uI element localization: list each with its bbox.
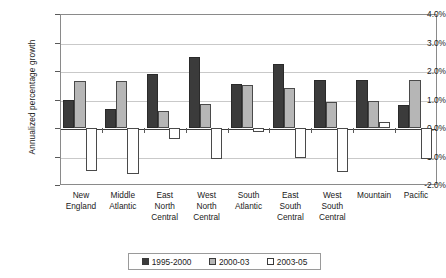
bar-group bbox=[186, 14, 228, 185]
bar-group bbox=[144, 14, 186, 185]
x-axis-label-line: England bbox=[60, 201, 102, 212]
x-axis-label-line: East bbox=[144, 190, 186, 201]
legend-label: 2003-05 bbox=[277, 257, 307, 267]
legend-item[interactable]: 1995-2000 bbox=[142, 257, 192, 267]
x-axis-label: SouthAtlantic bbox=[228, 190, 270, 212]
x-axis-label-line: Central bbox=[311, 212, 353, 223]
bar-group bbox=[228, 14, 270, 185]
bar-group bbox=[269, 14, 311, 185]
x-axis-label-line: West bbox=[186, 190, 228, 201]
bar-group bbox=[60, 14, 102, 185]
bar bbox=[284, 88, 295, 128]
x-axis-label-line: New bbox=[60, 190, 102, 201]
bar bbox=[63, 100, 74, 129]
legend-swatch-icon bbox=[209, 258, 216, 265]
legend-swatch-icon bbox=[267, 258, 274, 265]
bar bbox=[158, 111, 169, 128]
x-axis-label-line: South bbox=[228, 190, 270, 201]
bar bbox=[74, 81, 85, 128]
x-axis-label-line: Central bbox=[186, 212, 228, 223]
bar bbox=[116, 81, 127, 128]
legend-label: 2000-03 bbox=[219, 257, 249, 267]
bar bbox=[147, 74, 158, 128]
bar bbox=[127, 128, 138, 174]
x-axis-label-line: West bbox=[311, 190, 353, 201]
bar-group bbox=[102, 14, 144, 185]
bar-group bbox=[353, 14, 395, 185]
x-axis-label-line: Middle bbox=[102, 190, 144, 201]
x-axis-label-line: South bbox=[269, 201, 311, 212]
x-axis-label-line: North bbox=[186, 201, 228, 212]
legend-swatch-icon bbox=[142, 258, 149, 265]
x-axis-label-line: Atlantic bbox=[228, 201, 270, 212]
legend-label: 1995-2000 bbox=[152, 257, 192, 267]
x-axis-label-line: South bbox=[311, 201, 353, 212]
bar bbox=[273, 64, 284, 128]
bar bbox=[356, 80, 367, 128]
x-axis-label-line: Pacific bbox=[395, 190, 437, 201]
x-axis-label: EastSouthCentral bbox=[269, 190, 311, 223]
bar bbox=[295, 128, 306, 158]
bar bbox=[105, 109, 116, 128]
bar bbox=[379, 122, 390, 128]
x-axis-label-line: Atlantic bbox=[102, 201, 144, 212]
bar bbox=[398, 105, 409, 128]
bar bbox=[86, 128, 97, 171]
bar bbox=[314, 80, 325, 128]
y-tick-mark bbox=[55, 185, 60, 186]
x-axis-label-line: Central bbox=[269, 212, 311, 223]
bar-group bbox=[311, 14, 353, 185]
y-axis-title: Annualized percentage growth bbox=[27, 7, 37, 187]
bar bbox=[169, 128, 180, 139]
x-axis-label-line: North bbox=[144, 201, 186, 212]
x-axis-label-line: Mountain bbox=[353, 190, 395, 201]
legend-item[interactable]: 2003-05 bbox=[267, 257, 307, 267]
bar bbox=[231, 84, 242, 128]
x-axis-label: MiddleAtlantic bbox=[102, 190, 144, 212]
bar-group bbox=[395, 14, 437, 185]
bar bbox=[421, 128, 432, 159]
chart-legend: 1995-20002000-032003-05 bbox=[128, 253, 321, 270]
bar bbox=[368, 101, 379, 128]
bar bbox=[211, 128, 222, 159]
bars-layer bbox=[60, 14, 437, 185]
x-axis-label: Pacific bbox=[395, 190, 437, 201]
x-axis-label-line: East bbox=[269, 190, 311, 201]
x-axis-label: Mountain bbox=[353, 190, 395, 201]
x-axis-label: WestSouthCentral bbox=[311, 190, 353, 223]
bar bbox=[189, 57, 200, 128]
bar bbox=[242, 85, 253, 128]
legend-item[interactable]: 2000-03 bbox=[209, 257, 249, 267]
bar bbox=[200, 104, 211, 128]
x-axis-label: NewEngland bbox=[60, 190, 102, 212]
x-axis-label-line: Central bbox=[144, 212, 186, 223]
bar bbox=[253, 128, 264, 132]
bar bbox=[337, 128, 348, 172]
x-axis-categories: NewEnglandMiddleAtlanticEastNorthCentral… bbox=[60, 190, 437, 238]
bar-chart: Annualized percentage growth 4.0%3.0%2.0… bbox=[0, 0, 446, 278]
bar bbox=[326, 102, 337, 128]
x-axis-label: EastNorthCentral bbox=[144, 190, 186, 223]
x-axis-label: WestNorthCentral bbox=[186, 190, 228, 223]
bar bbox=[409, 80, 420, 128]
